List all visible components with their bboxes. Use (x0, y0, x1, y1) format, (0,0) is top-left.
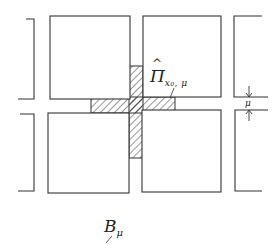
diagram-canvas (0, 0, 280, 245)
right-partial-squares (234, 16, 268, 191)
projection-label: ^Πx₀, μ (150, 66, 188, 86)
block-label: Bμ (104, 216, 123, 236)
block-symbol: B (104, 216, 117, 236)
square-top-left (50, 16, 130, 99)
square-bottom-left (48, 113, 129, 193)
hat-accent: ^ (152, 57, 162, 71)
gap-label: μ (245, 98, 251, 108)
block-subscript: μ (117, 227, 124, 238)
block-label-tail (106, 236, 112, 243)
left-partial-squares (18, 19, 34, 191)
square-bottom-right (142, 110, 221, 192)
projection-subscript: x₀, μ (165, 78, 188, 88)
